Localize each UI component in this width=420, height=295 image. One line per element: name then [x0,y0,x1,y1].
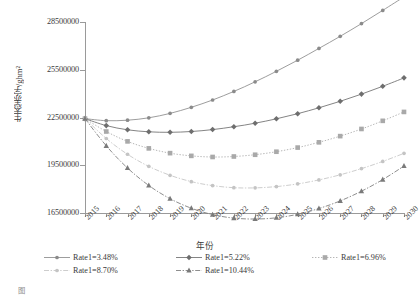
x-axis-tick-label: 2026 [318,205,335,222]
chart-legend: Rate1=3.48%Rate1=5.22%Rate1=6.96%Rate1=8… [44,253,406,279]
x-axis-tick-label: 2019 [169,205,186,222]
legend-swatch [44,253,70,262]
legend-label: Rate1=10.44% [205,266,254,275]
legend-item[interactable]: Rate1=6.96% [312,253,386,262]
figure-caption: 图 [18,287,410,295]
x-axis-tick-label: 2029 [382,205,399,222]
legend-item[interactable]: Rate1=8.70% [44,266,118,275]
legend-swatch [312,253,338,262]
legend-label: Rate1=5.22% [205,253,250,262]
legend-label: Rate1=6.96% [341,253,386,262]
y-axis-tick [80,22,85,23]
legend-item[interactable]: Rate1=3.48% [44,253,118,262]
x-axis-tick-label: 2025 [297,205,314,222]
legend-label: Rate1=8.70% [73,266,118,275]
legend-swatch [176,253,202,262]
y-axis-tick [80,165,85,166]
axis-ticks: 2015201620172018201920202021202220232024… [0,0,416,260]
legend-swatch [176,266,202,275]
x-axis-tick-label: 2020 [190,205,207,222]
figure-caption-label: 图 [18,287,25,295]
x-axis-tick-label: 2017 [127,205,144,222]
y-axis-tick [80,118,85,119]
legend-item[interactable]: Rate1=5.22% [176,253,250,262]
y-axis-tick [80,70,85,71]
x-axis-tick-label: 2022 [233,205,250,222]
x-axis-tick-label: 2018 [148,205,165,222]
x-axis-tick-label: 2023 [254,205,271,222]
x-axis-title: 年份 [196,239,214,251]
legend-item[interactable]: Rate1=10.44% [176,266,254,275]
legend-label: Rate1=3.48% [73,253,118,262]
x-axis-tick-label: 2016 [105,205,122,222]
y-axis-title: 生态赤字/ghm² [14,66,27,122]
x-axis-tick-label: 2030 [403,205,420,222]
x-axis-tick-label: 2021 [212,205,229,222]
x-axis-tick-label: 2015 [84,205,101,222]
x-axis-tick-label: 2024 [275,205,292,222]
x-axis-tick-label: 2028 [360,205,377,222]
x-axis-tick-label: 2027 [339,205,356,222]
legend-swatch [44,266,70,275]
